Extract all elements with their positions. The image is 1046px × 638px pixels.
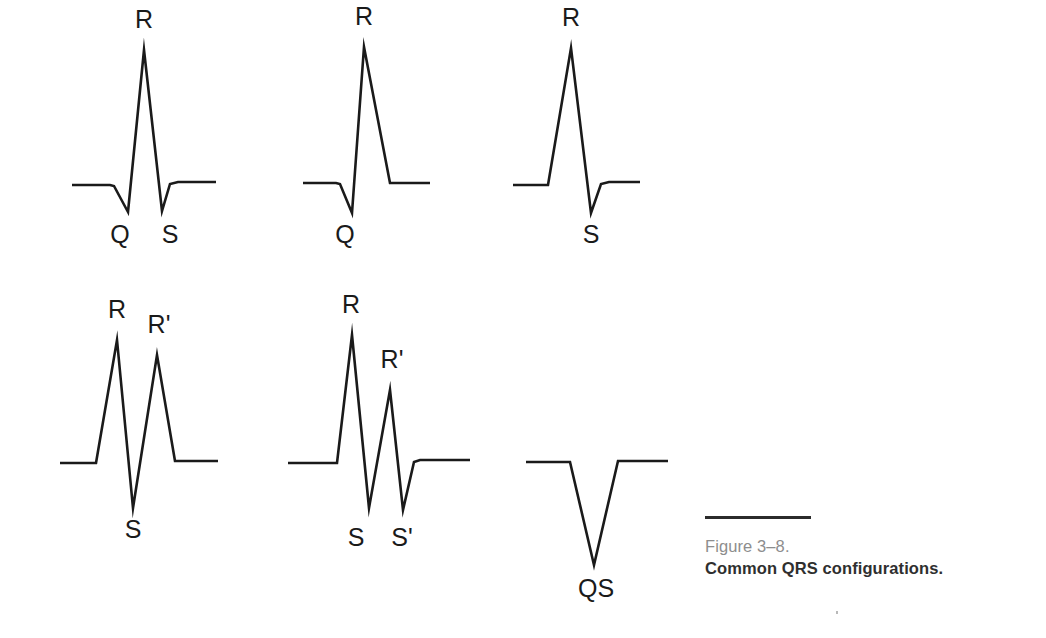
wave-label-R: R (135, 5, 153, 33)
wave-label-Sprime: S' (391, 523, 412, 551)
ecg-traces-group (60, 47, 668, 565)
figure-caption: Figure 3–8. Common QRS configurations. (705, 516, 1005, 580)
wave-label-R: R (355, 2, 373, 30)
wave-label-R: R (108, 295, 126, 323)
wave-label-S: S (162, 220, 179, 248)
ecg-trace-rsrprime (60, 340, 218, 508)
wave-label-Q: Q (335, 220, 354, 248)
caption-rule-divider (705, 516, 811, 519)
wave-label-S: S (583, 220, 600, 248)
wave-label-Rprime: R' (148, 310, 171, 338)
wave-label-R: R (342, 290, 360, 318)
ecg-trace-qr (303, 47, 430, 213)
wave-label-R: R (562, 3, 580, 31)
ecg-trace-qrs (72, 50, 216, 212)
wave-label-QS: QS (578, 574, 614, 602)
wave-label-S: S (348, 523, 365, 551)
wave-label-S: S (125, 515, 142, 543)
ecg-trace-rsrprimesprime (288, 335, 470, 510)
wave-label-Q: Q (110, 220, 129, 248)
figure-container: RQSRQRSRR'SRR'SS'QS Figure 3–8. Common Q… (0, 0, 1046, 638)
figure-title: Common QRS configurations. (705, 558, 1005, 580)
figure-number: Figure 3–8. (705, 536, 1005, 558)
wave-label-Rprime: R' (381, 345, 404, 373)
ecg-trace-rs (513, 48, 640, 213)
page-speck (836, 611, 838, 614)
ecg-trace-qs (526, 461, 668, 565)
